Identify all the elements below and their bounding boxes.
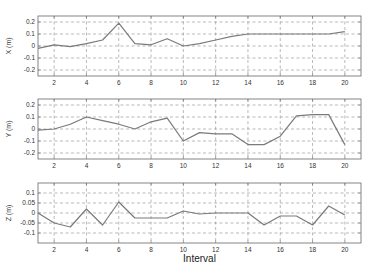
x-tick-label: 4 [85, 246, 89, 253]
x-tick-label: 12 [212, 79, 220, 86]
x-tick-label: 6 [117, 79, 121, 86]
chart-figure: 2468101214161820-0.2-0.100.10.2X (m)2468… [0, 0, 375, 273]
x-tick-label: 14 [244, 162, 252, 169]
subplot-x: 2468101214161820-0.2-0.100.10.2X (m) [5, 16, 361, 86]
x-tick-label: 6 [117, 162, 121, 169]
y-tick-label: 0.1 [26, 113, 35, 120]
x-tick-label: 20 [341, 79, 349, 86]
data-series-line [38, 23, 345, 48]
x-tick-label: 2 [52, 162, 56, 169]
y-axis-label: X (m) [5, 37, 13, 54]
y-tick-label: -0.05 [20, 219, 35, 226]
x-tick-label: 20 [341, 246, 349, 253]
x-tick-label: 6 [117, 246, 121, 253]
y-tick-label: 0.1 [26, 30, 35, 37]
y-tick-label: -0.1 [24, 54, 36, 61]
x-axis-label: Interval [183, 253, 216, 264]
x-tick-label: 10 [180, 79, 188, 86]
x-tick-label: 16 [277, 79, 285, 86]
x-tick-label: 18 [309, 162, 317, 169]
y-tick-label: 0.2 [26, 18, 35, 25]
y-tick-label: 0 [31, 125, 35, 132]
x-tick-label: 2 [52, 246, 56, 253]
y-tick-label: -0.1 [24, 137, 36, 144]
x-tick-label: 12 [212, 246, 220, 253]
y-tick-label: -0.1 [24, 229, 36, 236]
y-tick-label: 0 [31, 42, 35, 49]
y-axis-label: Y (m) [5, 121, 13, 138]
y-tick-label: 0.05 [22, 199, 35, 206]
x-tick-label: 10 [180, 162, 188, 169]
y-tick-label: 0.1 [26, 189, 35, 196]
subplot-y: 2468101214161820-0.2-0.100.10.2Y (m) [5, 99, 361, 169]
subplot-z: 2468101214161820-0.1-0.0500.050.1Z (m)In… [5, 183, 361, 264]
data-series-line [38, 115, 345, 145]
x-tick-label: 8 [149, 162, 153, 169]
x-tick-label: 16 [277, 162, 285, 169]
x-tick-label: 4 [85, 79, 89, 86]
x-tick-label: 8 [149, 79, 153, 86]
x-tick-label: 14 [244, 79, 252, 86]
y-axis-label: Z (m) [5, 205, 13, 222]
x-tick-label: 18 [309, 246, 317, 253]
y-tick-label: 0 [31, 209, 35, 216]
y-tick-label: -0.2 [24, 66, 36, 73]
x-tick-label: 16 [277, 246, 285, 253]
x-tick-label: 8 [149, 246, 153, 253]
x-tick-label: 18 [309, 79, 317, 86]
x-tick-label: 4 [85, 162, 89, 169]
x-tick-label: 14 [244, 246, 252, 253]
x-tick-label: 2 [52, 79, 56, 86]
y-tick-label: 0.2 [26, 101, 35, 108]
x-tick-label: 12 [212, 162, 220, 169]
x-tick-label: 10 [180, 246, 188, 253]
y-tick-label: -0.2 [24, 149, 36, 156]
x-tick-label: 20 [341, 162, 349, 169]
